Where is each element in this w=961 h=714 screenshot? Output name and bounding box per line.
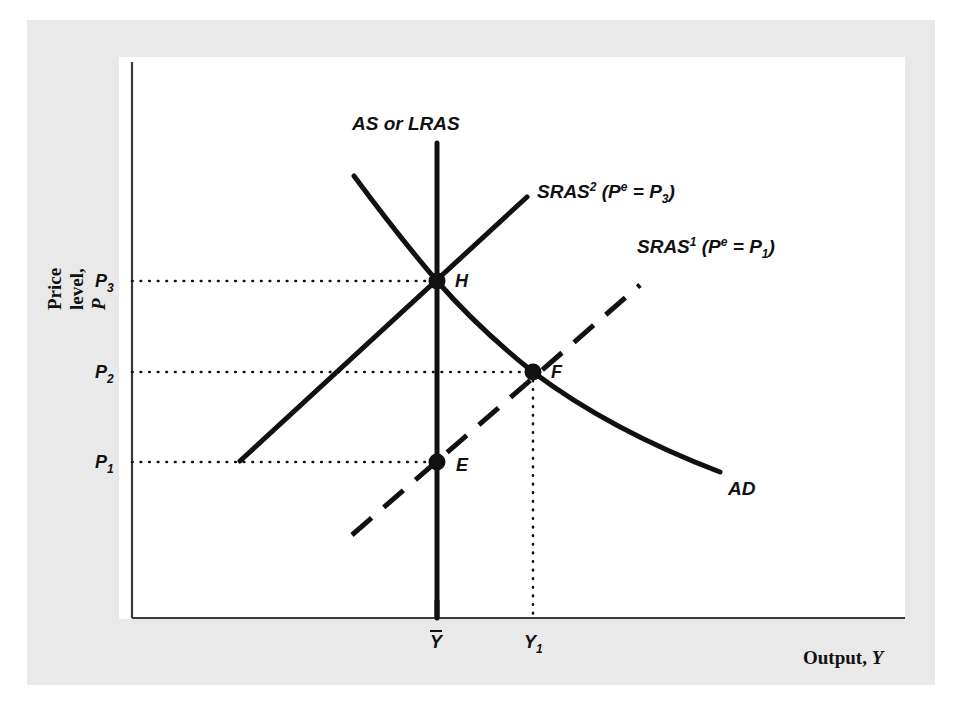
sras2-paren-close: ) [669,181,675,202]
y-axis-title-symbol: P [88,298,109,310]
sras1-paren-close: ) [769,236,775,257]
sras2-target-p: P [649,181,662,202]
point-label-e: E [456,456,468,474]
point-marker-h [429,273,446,290]
curve-label-ad-text: AD [728,478,755,499]
y-tick-p1-sub: 1 [107,462,114,476]
x-tick-y1-base: Y [524,632,536,652]
curve-label-sras1: SRAS1 (Pe = P1) [637,236,775,260]
sras1-target-p: P [749,236,762,257]
sras1-target-sub: 1 [762,247,769,261]
y-axis-title-text: Price level, [44,268,87,310]
sras2-equals: = [627,181,649,202]
figure-root: Price level, P Output, Y P3 P2 P1 Y Y1 A… [0,0,961,714]
x-tick-y1-sub: 1 [536,642,543,656]
curve-label-sras2: SRAS2 (Pe = P3) [537,181,675,205]
y-tick-p2-sub: 2 [107,372,114,386]
curve-ad [354,176,720,472]
sras1-expect-p: P [708,236,721,257]
sras2-target-sub: 3 [662,192,669,206]
y-tick-label-p1: P1 [95,453,114,475]
point-label-h-text: H [455,271,468,291]
y-tick-label-p2: P2 [95,363,114,385]
curve-label-ad: AD [728,479,755,498]
point-marker-f [525,364,542,381]
y-tick-p2-base: P [95,362,107,382]
y-tick-p3-sub: 3 [107,281,114,295]
curve-sras1 [352,285,640,535]
chart-canvas [0,0,961,714]
sras1-paren-open: ( [696,236,708,257]
point-label-f-text: F [551,362,562,382]
y-axis-title: Price level, P [20,60,50,320]
point-label-e-text: E [456,455,468,475]
sras1-name: SRAS [637,236,690,257]
sras2-expect-p: P [608,181,621,202]
point-label-f: F [551,363,562,381]
x-tick-ybar-base: Y [430,632,442,652]
sras2-paren-open: ( [596,181,608,202]
point-label-h: H [455,272,468,290]
y-tick-label-p3: P3 [95,272,114,294]
y-tick-p1-base: P [95,452,107,472]
sras2-name: SRAS [537,181,590,202]
curve-label-as-lras-text: AS or LRAS [352,113,460,134]
curve-label-as-lras: AS or LRAS [352,114,460,133]
sras1-equals: = [727,236,749,257]
ybar-overline [430,630,442,632]
x-tick-label-ybar: Y [430,633,961,651]
y-tick-p3-base: P [95,271,107,291]
x-tick-label-y1: Y1 [524,633,543,655]
point-marker-e [429,454,446,471]
